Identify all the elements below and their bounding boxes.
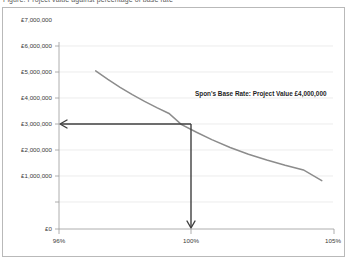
y-tick-label-6m: £6,000,000 [21, 42, 53, 49]
y-tick-label-7m: £7,000,000 [21, 16, 53, 23]
plot-panel: £7,000,000 £6,000,000 £5,000,000 £4,000,… [2, 7, 345, 257]
y-tick-label-5m: £5,000,000 [21, 68, 53, 75]
figure-title: Figure: Project value against percentage… [3, 0, 173, 4]
axis-lines [59, 42, 334, 229]
x-tick-label-105: 105% [325, 237, 341, 244]
horizontal-value-arrow [60, 120, 191, 128]
chart-figure: Figure: Project value against percentage… [0, 0, 347, 260]
x-axis-ticks [59, 229, 334, 234]
y-axis-ticks [55, 46, 59, 229]
project-value-curve [96, 71, 322, 181]
y-axis-labels: £7,000,000 £6,000,000 £5,000,000 £4,000,… [21, 16, 53, 232]
y-tick-label-4m: £4,000,000 [21, 94, 53, 101]
y-tick-label-2m: £2,000,000 [21, 146, 53, 153]
x-axis-labels: 96% 100% 105% [53, 237, 342, 244]
base-rate-callout-label: Spon's Base Rate: Project Value £4,000,0… [195, 90, 327, 98]
x-tick-label-96: 96% [53, 237, 66, 244]
y-tick-label-1m: £1,000,000 [21, 172, 53, 179]
y-tick-label-3m: £3,000,000 [21, 120, 53, 127]
x-tick-label-100: 100% [183, 237, 199, 244]
y-tick-label-zero: £0 [45, 225, 52, 232]
chart-plot-area: £7,000,000 £6,000,000 £5,000,000 £4,000,… [3, 8, 344, 256]
figure-title-strip: Figure: Project value against percentage… [0, 0, 347, 7]
